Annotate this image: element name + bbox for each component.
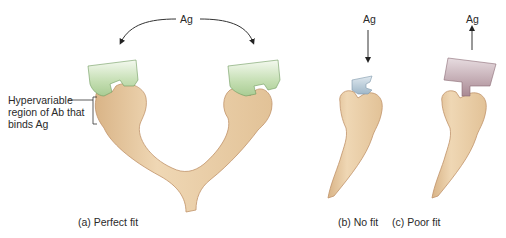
caption-perfect-fit: (a) Perfect fit (78, 216, 138, 228)
antigen-label-b: Ag (363, 13, 376, 25)
antibody-y-shape (95, 84, 272, 212)
caption-no-fit: (b) No fit (338, 216, 378, 228)
antigen-perfect-fit-right (228, 60, 280, 96)
antigen-label-a: Ag (180, 13, 193, 25)
antigen-no-fit (352, 76, 372, 94)
antigen-label-c: Ag (466, 13, 479, 25)
antibody-arm-poor-fit (432, 28, 496, 198)
hypervariable-annotation: Hypervariable region of Ab that binds Ag (8, 94, 84, 130)
antibody-arm-no-fit (328, 30, 382, 198)
caption-poor-fit: (c) Poor fit (392, 216, 440, 228)
